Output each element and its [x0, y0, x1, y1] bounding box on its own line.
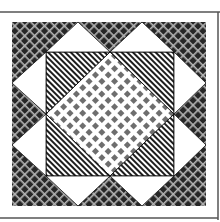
quilt-block-figure	[0, 0, 220, 222]
quilt-pattern-svg	[0, 0, 220, 222]
